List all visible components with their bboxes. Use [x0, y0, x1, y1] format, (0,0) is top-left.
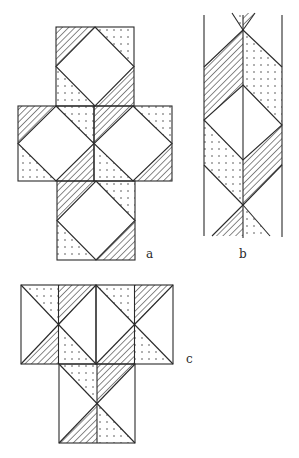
panel-c-square-top-right — [96, 285, 173, 364]
panel-a-square-bottom — [57, 181, 135, 260]
panel-c-square-top-left — [21, 285, 96, 364]
panel-c-square-bottom — [59, 364, 135, 443]
panel-a-label: a — [146, 248, 153, 260]
panel-a-square-middle-right — [94, 106, 172, 181]
panel-b — [204, 13, 282, 238]
panel-a-square-middle-left — [18, 106, 94, 181]
panel-a — [18, 27, 172, 260]
panel-c — [21, 285, 173, 443]
panel-a-square-top — [56, 27, 134, 106]
panel-c-label: c — [186, 353, 193, 365]
figure-canvas — [0, 0, 299, 458]
panel-b-label: b — [239, 248, 247, 260]
